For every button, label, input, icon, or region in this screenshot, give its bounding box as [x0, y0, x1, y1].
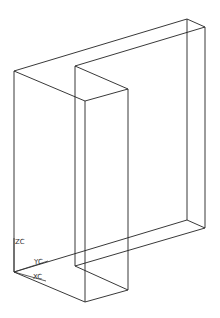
z-axis-label: ZC	[15, 238, 25, 246]
edge-bottom-right-depth	[187, 220, 205, 228]
x-axis-label: XC	[33, 273, 42, 281]
edge-top-right-depth	[187, 19, 205, 27]
edge-block-top-front	[85, 89, 128, 101]
y-axis-label: YC	[33, 258, 43, 266]
edge-bottom-left-diagonal	[14, 272, 85, 302]
edge-block-bottom-front	[85, 290, 128, 302]
cad-viewport[interactable]: ZC YC XC	[0, 0, 220, 318]
edge-top-back	[14, 19, 187, 71]
edge-inner-diagonal	[75, 66, 128, 89]
edge-bottom-inner-diagonal	[75, 266, 128, 290]
y-axis	[14, 261, 48, 272]
edge-left-top-diagonal	[14, 71, 85, 101]
